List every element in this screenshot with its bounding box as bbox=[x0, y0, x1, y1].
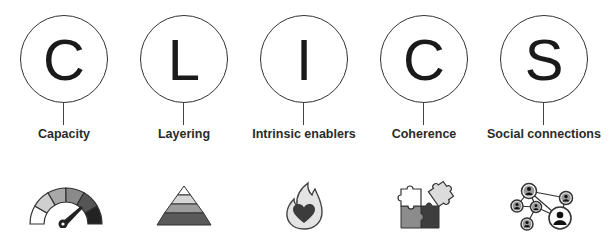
letter-circle: S bbox=[500, 15, 588, 103]
connector-line bbox=[303, 103, 304, 125]
clics-item-coherence: C Coherence bbox=[364, 0, 484, 248]
clics-item-capacity: C Capacity bbox=[4, 0, 124, 248]
clics-item-intrinsic-enablers: I Intrinsic enablers bbox=[244, 0, 364, 248]
clics-item-social-connections: S Social connections bbox=[484, 0, 604, 248]
item-label: Social connections bbox=[454, 127, 611, 141]
connector-line bbox=[183, 103, 184, 125]
puzzle-pieces-icon bbox=[394, 180, 458, 232]
person-node bbox=[522, 184, 537, 199]
letter: C bbox=[403, 31, 445, 89]
connector-line bbox=[63, 103, 64, 125]
letter: S bbox=[525, 31, 564, 89]
letter-circle: C bbox=[20, 15, 108, 103]
letter: L bbox=[168, 31, 200, 89]
connector-line bbox=[543, 103, 544, 125]
letter-circle: I bbox=[260, 15, 348, 103]
letter-circle: C bbox=[380, 15, 468, 103]
gauge-icon bbox=[28, 184, 104, 228]
connector-line bbox=[423, 103, 424, 125]
people-network-icon bbox=[508, 180, 586, 234]
clics-item-layering: L Layering bbox=[124, 0, 244, 248]
flame-heart-icon bbox=[284, 181, 324, 231]
letter: C bbox=[43, 31, 85, 89]
letter-circle: L bbox=[140, 15, 228, 103]
letter: I bbox=[296, 31, 312, 89]
layered-pyramid-icon bbox=[156, 185, 212, 227]
